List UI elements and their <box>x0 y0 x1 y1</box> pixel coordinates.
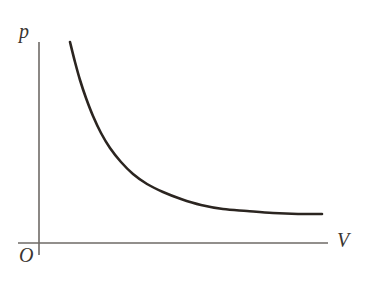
y-axis-label: p <box>19 21 29 41</box>
pressure-volume-graph: p V O <box>0 0 369 283</box>
origin-label: O <box>19 245 33 265</box>
isotherm-curve <box>70 42 322 214</box>
x-axis-label: V <box>337 230 349 250</box>
plot-canvas <box>0 0 369 283</box>
